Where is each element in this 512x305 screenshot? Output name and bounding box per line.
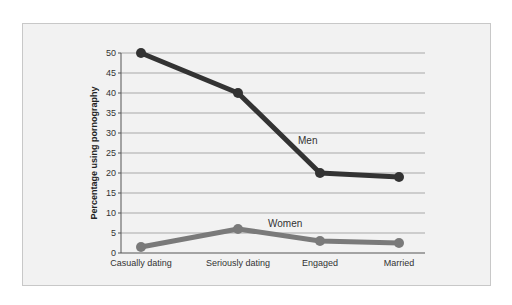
data-point-women — [233, 224, 243, 234]
line-chart: 05101520253035404550Casually datingSerio… — [0, 0, 512, 305]
data-point-men — [233, 88, 243, 98]
y-tick-label: 40 — [106, 88, 116, 98]
y-axis-label: Percentage using pornography — [89, 86, 99, 219]
y-tick-label: 15 — [106, 188, 116, 198]
x-category-label: Married — [384, 258, 415, 268]
data-point-men — [315, 168, 325, 178]
annotation-women: Women — [268, 218, 302, 229]
x-category-label: Seriously dating — [206, 258, 270, 268]
y-tick-label: 30 — [106, 128, 116, 138]
y-tick-label: 45 — [106, 68, 116, 78]
data-point-women — [315, 236, 325, 246]
y-tick-label: 25 — [106, 148, 116, 158]
data-point-men — [136, 48, 146, 58]
data-point-women — [136, 242, 146, 252]
y-tick-label: 20 — [106, 168, 116, 178]
x-category-label: Casually dating — [110, 258, 172, 268]
y-tick-label: 5 — [111, 228, 116, 238]
y-tick-label: 10 — [106, 208, 116, 218]
series-line-women — [141, 229, 399, 247]
x-category-label: Engaged — [302, 258, 338, 268]
annotation-men: Men — [298, 135, 317, 146]
y-tick-label: 35 — [106, 108, 116, 118]
series-line-men — [141, 53, 399, 177]
data-point-men — [394, 172, 404, 182]
y-tick-label: 0 — [111, 248, 116, 258]
data-point-women — [394, 238, 404, 248]
y-tick-label: 50 — [106, 48, 116, 58]
